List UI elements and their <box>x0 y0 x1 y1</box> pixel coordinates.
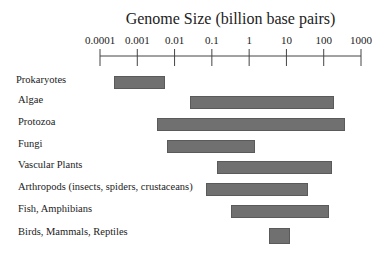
range-bar <box>167 140 255 153</box>
range-bar <box>217 161 332 174</box>
x-tick-label: 1000 <box>350 34 372 46</box>
x-tick-label: 1 <box>246 34 252 46</box>
row-label: Algae <box>18 94 43 105</box>
x-tick-label: 0.001 <box>125 34 150 46</box>
row-label: Protozoa <box>18 116 55 127</box>
range-bar <box>231 205 329 218</box>
row-label: Vascular Plants <box>18 159 82 170</box>
x-tick-label: 0.0001 <box>85 34 115 46</box>
range-bar <box>114 76 165 89</box>
range-bar <box>206 183 308 196</box>
row-label: Arthropods (insects, spiders, crustacean… <box>18 181 193 192</box>
x-tick-label: 0.1 <box>205 34 219 46</box>
row-label: Fish, Amphibians <box>18 203 92 214</box>
row-label: Prokaryotes <box>16 74 66 85</box>
x-tick-label: 10 <box>281 34 292 46</box>
range-bar <box>190 96 334 109</box>
row-label: Birds, Mammals, Reptiles <box>18 226 128 237</box>
range-bar <box>269 228 290 244</box>
x-tick-label: 0.01 <box>165 34 184 46</box>
x-tick-label: 100 <box>315 34 332 46</box>
range-bar <box>157 118 345 131</box>
row-label: Fungi <box>18 138 43 149</box>
